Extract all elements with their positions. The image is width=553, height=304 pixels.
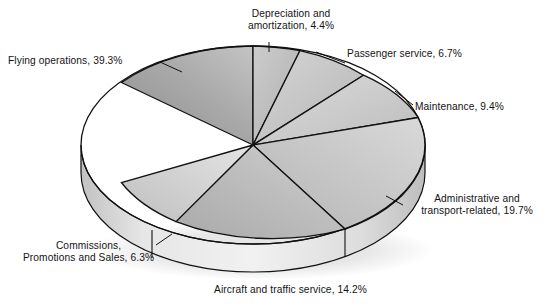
- slice-label-line-1: Passenger service, 6.7%: [347, 48, 507, 60]
- slice-label-line-2: Promotions and Sales, 6.3%: [6, 252, 171, 264]
- slice-label-maintenance: Maintenance, 9.4%: [415, 101, 550, 113]
- slice-label-line-2: transport-related, 19.7%: [403, 205, 551, 217]
- slice-label-passenger-service: Passenger service, 6.7%: [347, 48, 507, 60]
- slice-label-commissions-promotions-and-sales: Commissions, Promotions and Sales, 6.3%: [6, 240, 171, 265]
- slice-label-line-1: Depreciation and: [216, 8, 366, 20]
- slice-label-aircraft-and-traffic-service: Aircraft and traffic service, 14.2%: [183, 284, 398, 296]
- slice-label-line-1: Aircraft and traffic service, 14.2%: [183, 284, 398, 296]
- slice-label-line-1: Flying operations, 39.3%: [8, 55, 168, 67]
- slice-label-flying-operations: Flying operations, 39.3%: [8, 55, 168, 67]
- slice-label-line-1: Maintenance, 9.4%: [415, 101, 550, 113]
- slice-label-administrative-and-transport-related: Administrative and transport-related, 19…: [403, 193, 551, 218]
- slice-label-line-1: Administrative and: [403, 193, 551, 205]
- slice-label-line-1: Commissions,: [6, 240, 171, 252]
- slice-label-depreciation-and-amortization: Depreciation and amortization, 4.4%: [216, 8, 366, 33]
- pie-chart: Depreciation and amortization, 4.4% Pass…: [0, 0, 553, 304]
- slice-label-line-2: amortization, 4.4%: [216, 20, 366, 32]
